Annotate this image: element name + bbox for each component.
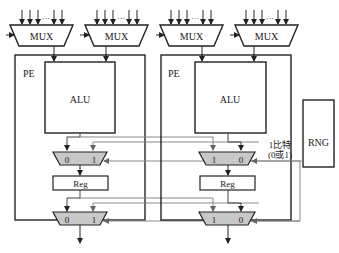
pe-2-mux2-top-in0: 0 — [239, 155, 244, 165]
mux-4: ··· MUX — [230, 10, 298, 46]
pe-1-mux2-bottom — [53, 212, 107, 225]
pe-1-mux2-top-in0: 0 — [65, 155, 70, 165]
pe-1-alu-label: ALU — [70, 94, 91, 105]
mux-2-ellipsis: ··· — [117, 14, 125, 23]
pe-1-mux2-top-in1: 1 — [92, 155, 97, 165]
pe-1-mux2-top — [53, 152, 107, 165]
mux-2-label: MUX — [105, 31, 129, 42]
pe-1-mux2-bottom-in0: 0 — [65, 215, 70, 225]
pe-2-reg-label: Reg — [220, 179, 235, 189]
mux-3-ellipsis: ··· — [191, 14, 199, 23]
pe-array-diagram: ··· MUX ··· MUX ··· MUX — [0, 0, 339, 253]
pe-1-label: PE — [23, 68, 35, 79]
mux-4-ellipsis: ··· — [266, 14, 274, 23]
pe-2-mux2-top-in1: 1 — [212, 155, 217, 165]
rng-block — [303, 100, 334, 167]
pe-1-reg-label: Reg — [73, 179, 88, 189]
mux-1-ellipsis: ··· — [42, 14, 50, 23]
mux-3-label: MUX — [180, 31, 204, 42]
rng-label: RNG — [308, 137, 329, 148]
mux-2: ··· MUX — [80, 10, 148, 46]
mux-1: ··· MUX — [6, 10, 73, 46]
mux-4-label: MUX — [255, 31, 279, 42]
rng-annotation-line2: (0或1) — [268, 149, 292, 160]
pe-2-mux2-bottom-in0: 0 — [239, 215, 244, 225]
pe-2-alu-label: ALU — [220, 94, 241, 105]
pe-2-mux2-bottom-in1: 1 — [212, 215, 217, 225]
pe-2-mux2-bottom — [199, 212, 255, 225]
pe-1-mux2-bottom-in1: 1 — [92, 215, 97, 225]
pe-2-mux2-top — [199, 152, 255, 165]
rng-annotation-line1: 1比特 — [269, 139, 292, 150]
pe-2-label: PE — [168, 68, 180, 79]
mux-1-label: MUX — [30, 31, 54, 42]
mux-3: ··· MUX — [156, 10, 223, 46]
